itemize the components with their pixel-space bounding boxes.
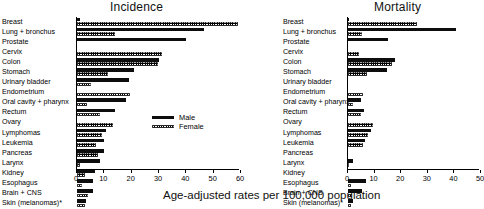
- category-label-oral-cavity-pharynx: Oral cavity + pharynx: [283, 98, 346, 108]
- bar-incidence-male-brain-cns: [77, 189, 93, 193]
- bar-group-ovary: [348, 118, 480, 128]
- category-label-cervix: Cervix: [283, 47, 346, 57]
- x-tick-incidence-50: [213, 170, 214, 173]
- panel-title-mortality: Mortality: [374, 0, 421, 14]
- category-label-esophagus: Esophagus: [283, 179, 346, 189]
- category-label-larynx: Larynx: [283, 158, 346, 168]
- bar-group-colon: [77, 57, 240, 67]
- bar-group-urinary-bladder: [348, 78, 480, 88]
- x-axis-mortality: [347, 169, 479, 170]
- bar-group-leukemia: [348, 138, 480, 148]
- x-tick-label-mortality-50: 50: [476, 174, 484, 183]
- x-tick-label-mortality-10: 10: [369, 174, 377, 183]
- bar-group-cervix: [77, 47, 240, 57]
- x-tick-incidence-40: [185, 170, 186, 173]
- bar-group-breast: [77, 17, 240, 27]
- category-label-rectum: Rectum: [283, 108, 346, 118]
- bar-incidence-male-leukemia: [77, 139, 104, 143]
- bar-group-oral-cavity-pharynx: [77, 98, 240, 108]
- x-axis-label: Age-adjusted rates per 100,000 populatio…: [163, 189, 380, 201]
- category-label-stomach: Stomach: [283, 67, 346, 77]
- bar-incidence-male-rectum: [77, 109, 115, 113]
- bar-group-urinary-bladder: [77, 78, 240, 88]
- bar-mortality-male-colon: [348, 58, 395, 62]
- bar-mortality-male-rectum: [348, 109, 364, 113]
- legend-item-male: Male: [152, 113, 204, 122]
- bar-mortality-female-rectum: [348, 113, 361, 117]
- bar-mortality-female-cervix: [348, 52, 359, 56]
- category-label-pancreas: Pancreas: [283, 148, 346, 158]
- bar-group-endometrium: [348, 88, 480, 98]
- x-tick-incidence-10: [103, 170, 104, 173]
- bar-incidence-male-urinary-bladder: [77, 78, 129, 82]
- bar-mortality-male-esophagus: [348, 179, 366, 183]
- bar-mortality-female-leukemia: [348, 143, 363, 147]
- category-label-ovary: Ovary: [2, 118, 75, 128]
- bar-incidence-female-lymphomas: [77, 133, 102, 137]
- bar-mortality-male-prostate: [348, 38, 388, 42]
- bar-incidence-female-rectum: [77, 113, 100, 117]
- bar-group-stomach: [348, 67, 480, 77]
- category-label-breast: Breast: [283, 17, 346, 27]
- bar-mortality-female-skin-melanomas: [348, 204, 351, 208]
- category-label-stomach: Stomach: [2, 67, 75, 77]
- x-tick-label-incidence-30: 30: [154, 174, 162, 183]
- bar-incidence-female-breast: [77, 22, 238, 26]
- category-label-kidney: Kidney: [2, 168, 75, 178]
- legend-label-male: Male: [179, 113, 195, 122]
- bar-incidence-male-breast: [77, 18, 80, 22]
- category-label-cervix: Cervix: [2, 47, 75, 57]
- bar-group-cervix: [348, 47, 480, 57]
- bar-mortality-female-lymphomas: [348, 133, 368, 137]
- legend-label-female: Female: [179, 122, 204, 131]
- bar-incidence-female-endometrium: [77, 93, 130, 97]
- bar-group-lung-bronchus: [77, 27, 240, 37]
- x-tick-mortality-50: [480, 170, 481, 173]
- bar-mortality-male-lymphomas: [348, 129, 371, 133]
- bar-mortality-male-breast: [348, 18, 349, 22]
- bar-incidence-female-kidney: [77, 173, 85, 177]
- bar-incidence-female-lung-bronchus: [77, 32, 115, 36]
- bar-incidence-female-esophagus: [77, 184, 82, 188]
- category-label-larynx: Larynx: [2, 158, 75, 168]
- bar-mortality-female-esophagus: [348, 184, 351, 188]
- category-label-lymphomas: Lymphomas: [283, 128, 346, 138]
- bar-incidence-female-stomach: [77, 72, 108, 76]
- bar-group-pancreas: [77, 148, 240, 158]
- bar-incidence-female-leukemia: [77, 143, 96, 147]
- x-tick-incidence-30: [158, 170, 159, 173]
- bar-incidence-male-lymphomas: [77, 129, 106, 133]
- bar-group-oral-cavity-pharynx: [348, 98, 480, 108]
- x-tick-label-incidence-10: 10: [99, 174, 107, 183]
- panel-title-incidence: Incidence: [110, 0, 163, 14]
- category-label-lung-bronchus: Lung + bronchus: [2, 27, 75, 37]
- x-tick-label-mortality-0: 0: [345, 174, 349, 183]
- category-label-esophagus: Esophagus: [2, 179, 75, 189]
- x-tick-label-incidence-40: 40: [181, 174, 189, 183]
- x-tick-label-mortality-20: 20: [396, 174, 404, 183]
- bar-group-lung-bronchus: [348, 27, 480, 37]
- bar-incidence-male-stomach: [77, 68, 134, 72]
- bar-group-stomach: [77, 67, 240, 77]
- x-tick-mortality-0: [347, 170, 348, 173]
- category-label-lung-bronchus: Lung + bronchus: [283, 27, 346, 37]
- bar-mortality-female-ovary: [348, 123, 373, 127]
- bar-mortality-female-colon: [348, 62, 392, 66]
- category-label-prostate: Prostate: [283, 37, 346, 47]
- category-label-prostate: Prostate: [2, 37, 75, 47]
- category-label-kidney: Kidney: [283, 168, 346, 178]
- x-tick-mortality-20: [400, 170, 401, 173]
- bar-mortality-male-lung-bronchus: [348, 28, 456, 32]
- bar-incidence-male-esophagus: [77, 179, 93, 183]
- bar-incidence-female-ovary: [77, 123, 113, 127]
- category-label-rectum: Rectum: [2, 108, 75, 118]
- plot-area-incidence: [76, 17, 240, 169]
- category-label-skin-melanomas: Skin (melanomas)*: [2, 199, 75, 209]
- bar-group-esophagus: [348, 179, 480, 189]
- x-tick-label-incidence-60: 60: [236, 174, 244, 183]
- x-tick-mortality-40: [453, 170, 454, 173]
- bar-mortality-male-larynx: [348, 159, 353, 163]
- bar-incidence-male-skin-melanomas: [77, 199, 86, 203]
- bar-incidence-female-urinary-bladder: [77, 83, 91, 87]
